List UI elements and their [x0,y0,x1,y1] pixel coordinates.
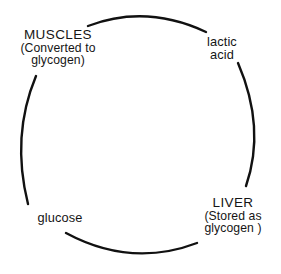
arc-glucose-to-muscles [21,76,36,204]
node-label-muscles: MUSCLES (Converted to glycogen) [2,28,114,67]
cycle-diagram: MUSCLES (Converted to glycogen) lactic a… [0,0,281,274]
arc-lactic-to-liver [238,63,254,186]
arc-liver-to-glucose [66,233,197,253]
node-label-glucose: glucose [20,211,100,224]
node-label-liver: LIVER (Stored as glycogen ) [188,196,278,235]
muscles-subtitle-line2: glycogen) [2,54,114,66]
node-label-lactic-acid: lactic acid [191,35,253,61]
lactic-acid-title-line2: acid [191,48,253,61]
liver-subtitle-line2: glycogen ) [188,222,278,234]
liver-title: LIVER [188,196,278,210]
muscles-title: MUSCLES [2,28,114,42]
glucose-title: glucose [20,211,100,224]
